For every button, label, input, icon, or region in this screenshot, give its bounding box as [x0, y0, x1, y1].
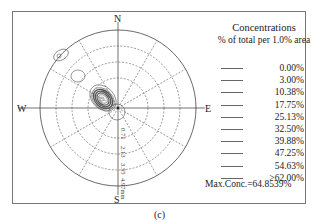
legend-value: 3.00% — [254, 75, 304, 85]
legend-value: 10.38% — [254, 87, 304, 97]
legend-line — [221, 166, 243, 167]
legend-line — [221, 141, 243, 142]
legend-value: 47.25% — [254, 148, 304, 158]
legend-line — [221, 105, 243, 106]
svg-text:2.13: 2.13 — [120, 146, 127, 157]
max-conc: Max.Conc.=64.8539% — [205, 179, 291, 189]
legend-value: 17.75% — [254, 100, 304, 110]
legend-line — [221, 92, 243, 93]
legend-line — [221, 153, 243, 154]
legend: Concentrations % of total per 1.0% area — [214, 22, 314, 46]
legend-value: 54.63% — [254, 161, 304, 171]
legend-line — [221, 68, 243, 69]
legend-line — [221, 129, 243, 130]
legend-subtitle: % of total per 1.0% area — [206, 34, 319, 46]
svg-text:0.71: 0.71 — [120, 128, 127, 139]
legend-value: 0.00% — [254, 63, 304, 73]
legend-value: 25.13% — [254, 112, 304, 122]
svg-text:3.55: 3.55 — [120, 163, 127, 174]
legend-title: Concentrations — [214, 22, 314, 34]
legend-value: 32.50% — [254, 124, 304, 134]
legend-line — [221, 117, 243, 118]
caption: (c) — [0, 209, 319, 220]
east-label: E — [205, 103, 211, 114]
legend-value: 39.88% — [254, 136, 304, 146]
svg-text:4.97mm: 4.97mm — [120, 178, 127, 200]
west-label: W — [17, 103, 27, 114]
north-label: N — [114, 13, 121, 24]
south-label: S — [114, 194, 120, 205]
legend-line — [221, 80, 243, 81]
